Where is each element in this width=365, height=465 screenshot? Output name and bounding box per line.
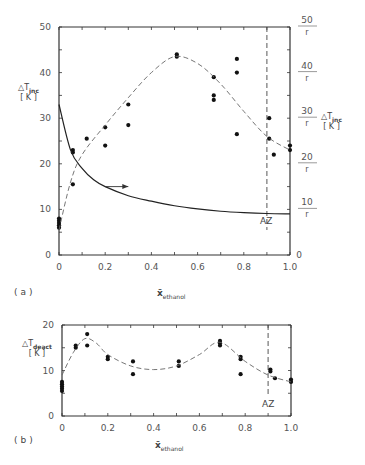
panel-b-xlabel: x̄ethanol [155,441,183,452]
data-point [272,153,276,157]
data-point [131,372,135,376]
y-right-tick-num: 20 [301,152,313,162]
y-right-tick-num: 10 [301,197,313,207]
data-point [212,93,216,97]
data-point [235,57,239,61]
y-tick-label: 0 [48,411,54,421]
data-point [71,182,75,186]
x-tick-label: 0.2 [101,423,115,433]
y-tick-label: 10 [40,204,52,214]
data-point [103,143,107,147]
x-tick-label: 0.4 [144,262,159,272]
x-tick-label: 0 [56,262,62,272]
y-right-tick-label: 0 [296,250,302,260]
data-point [268,369,272,373]
data-point [288,148,292,152]
x-tick-label: 0.8 [238,423,253,433]
data-point [235,71,239,75]
data-point [126,102,130,106]
panel-b-az-label: AZ [262,400,274,409]
data-point [212,98,216,102]
data-point [131,359,135,363]
y-tick-label: 0 [45,250,51,260]
panel-a-xlabel: x̄ethanol [157,289,185,300]
data-point [74,343,78,347]
y-right-tick-num: 30 [301,106,313,116]
y-tick-label: 40 [40,68,52,78]
panel-a-label: (a) [14,288,36,297]
data-point [85,137,89,141]
x-tick-label: 0.4 [146,423,161,433]
x-tick-label: 0.6 [190,262,205,272]
fit-curve-dashed [59,56,290,230]
panel-a-az-label: AZ [260,217,272,226]
y-right-tick-den: r [305,165,309,174]
data-point [106,357,110,361]
panel-b-plot: 00.20.40.60.81.001020 [43,320,299,433]
data-point [239,372,243,376]
y-right-tick-den: r [305,28,309,37]
data-point [267,137,271,141]
y-tick-label: 20 [40,159,52,169]
y-right-tick-den: r [305,74,309,83]
x-tick-label: 0.2 [98,262,112,272]
y-tick-label: 50 [40,22,52,32]
panel-a-plot: 00.20.40.60.81.001020304050010r20r30r40r… [40,15,317,272]
axis-frame [62,325,291,416]
data-point [57,216,61,220]
x-tick-label: 0.8 [237,262,252,272]
y-tick-label: 10 [43,366,55,376]
x-tick-label: 0 [59,423,65,433]
x-tick-label: 0.6 [192,423,207,433]
y-tick-label: 30 [40,113,52,123]
panel-b-label: (b) [14,436,36,445]
panel-b-ylabel: △Tdeact[ K ] [22,340,52,358]
r-curve-solid [59,105,290,214]
fit-curve-dashed [62,338,291,382]
data-point [177,359,181,363]
x-tick-label: 1.0 [284,423,299,433]
arrowhead-icon [122,184,128,189]
data-point [288,143,292,147]
figure-canvas: 00.20.40.60.81.001020304050010r20r30r40r… [0,0,365,465]
data-point [60,380,64,384]
y-right-tick-num: 40 [301,61,313,71]
panel-a-ylabel-right: △Tinc[ K ] [321,113,342,131]
y-right-tick-num: 50 [301,15,313,25]
data-point [235,132,239,136]
y-tick-label: 20 [43,320,55,330]
data-point [126,123,130,127]
data-point [85,332,89,336]
x-tick-label: 1.0 [283,262,298,272]
axis-frame [59,27,290,255]
data-point [267,116,271,120]
data-point [85,343,89,347]
y-right-tick-den: r [305,210,309,219]
y-right-tick-den: r [305,119,309,128]
data-point [218,343,222,347]
panel-a-ylabel-left: △Tinc[ K ] [18,84,39,102]
